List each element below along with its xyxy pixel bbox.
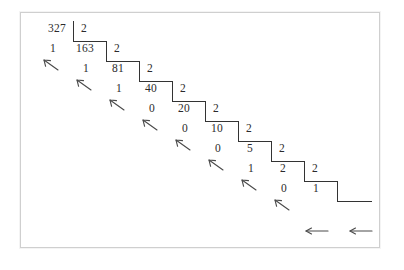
remainder-row-6: 0 [215,143,221,155]
arrow-up-left-3 [110,100,124,110]
diagram-canvas: 327 2 1 163 2 1 81 2 1 40 2 0 20 2 0 10 … [0,0,404,270]
remainder-row-3: 1 [116,83,122,95]
remainder-row-8: 0 [281,183,287,195]
step-rule-0 [74,21,107,41]
divisor-row-0: 2 [81,23,87,35]
remainder-row-7: 1 [248,163,254,175]
quotient-2: 2 [280,163,286,175]
staircase-lines [0,0,404,270]
step-rule-3 [173,81,206,101]
divisor-row-1: 2 [114,43,120,55]
quotient-81: 81 [112,63,124,75]
step-rule-7 [305,161,338,181]
arrow-up-left-5 [176,140,190,150]
divisor-row-5: 2 [246,123,252,135]
arrow-up-left-4 [143,120,157,130]
step-rule-4 [206,101,239,121]
step-rule-5 [239,121,272,141]
arrow-up-left-6 [209,160,223,170]
quotient-5: 5 [247,143,253,155]
divisor-row-7: 2 [312,163,318,175]
quotient-10: 10 [211,123,223,135]
quotient-1: 1 [313,183,319,195]
divisor-row-6: 2 [279,143,285,155]
quotient-20: 20 [178,103,190,115]
arrow-left-2 [350,228,372,234]
arrow-up-left-1 [44,60,58,70]
arrow-up-left-2 [77,80,91,90]
divisor-row-4: 2 [213,103,219,115]
remainder-row-1: 1 [50,43,56,55]
step-rule-8 [338,181,373,201]
remainder-row-5: 0 [182,123,188,135]
remainder-row-2: 1 [83,63,89,75]
quotient-163: 163 [76,43,94,55]
step-rule-6 [272,141,305,161]
quotient-40: 40 [145,83,157,95]
diagram-stage: 327 2 1 163 2 1 81 2 1 40 2 0 20 2 0 10 … [0,0,404,270]
remainder-row-4: 0 [149,103,155,115]
dividend-327: 327 [48,23,66,35]
step-rule-2 [140,61,173,81]
divisor-row-3: 2 [180,83,186,95]
arrow-up-left-7 [242,180,256,190]
arrow-up-left-8 [275,200,289,210]
arrow-left-1 [306,228,328,234]
divisor-row-2: 2 [147,63,153,75]
step-rule-1 [107,41,140,61]
